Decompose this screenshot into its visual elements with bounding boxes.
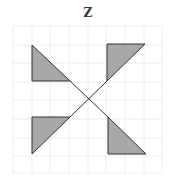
diagram-canvas [0,0,169,179]
triangle-bottom-right [108,117,146,154]
triangle-bottom-left [32,117,70,154]
